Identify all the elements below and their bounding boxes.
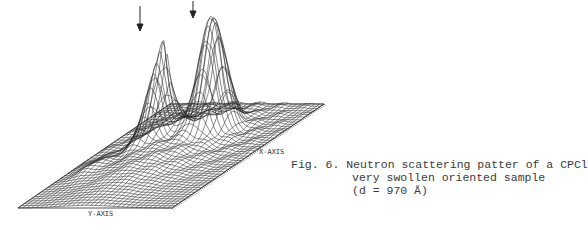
y-axis-label: Y-AXIS xyxy=(88,210,113,218)
down-arrow-icon xyxy=(137,6,143,31)
figure-number: Fig. 6. xyxy=(291,158,339,171)
down-arrow-icon xyxy=(190,1,196,18)
wireframe-mesh xyxy=(18,17,326,210)
caption-line-1: Neutron scattering patter of a CPCl xyxy=(346,158,588,171)
caption-line-2: very swollen oriented sample xyxy=(291,171,588,184)
caption-line-3: (d = 970 Å) xyxy=(291,184,588,197)
peak-arrows xyxy=(137,1,196,31)
figure-caption: Fig. 6. Neutron scattering patter of a C… xyxy=(291,158,588,197)
x-axis-label: X-AXIS xyxy=(259,148,284,156)
